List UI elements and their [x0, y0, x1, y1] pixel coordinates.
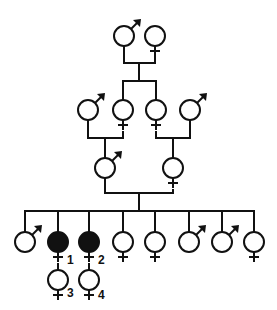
individual-number-label: 3	[67, 286, 74, 300]
female-symbol-icon	[244, 232, 264, 262]
male-symbol-icon	[179, 225, 206, 252]
male-symbol-icon	[114, 19, 141, 46]
female-symbol-icon	[163, 158, 183, 188]
male-symbol-icon	[15, 225, 42, 252]
female-symbol-icon	[146, 100, 166, 130]
female-symbol-icon	[145, 232, 165, 262]
male-symbol-icon	[212, 225, 239, 252]
male-symbol-icon	[78, 93, 105, 120]
female-symbol-icon	[79, 270, 99, 300]
female-symbol-icon	[79, 232, 99, 262]
individual-number-label: 2	[98, 253, 105, 267]
female-symbol-icon	[48, 270, 68, 300]
individual-number-label: 4	[98, 288, 105, 302]
individuals	[15, 19, 264, 300]
female-symbol-icon	[113, 100, 133, 130]
female-symbol-icon	[145, 26, 165, 56]
male-symbol-icon	[180, 93, 207, 120]
female-symbol-icon	[113, 232, 133, 262]
pedigree-diagram: 1234	[0, 0, 277, 310]
female-symbol-icon	[48, 232, 68, 262]
male-symbol-icon	[95, 151, 122, 178]
individual-number-label: 1	[67, 253, 74, 267]
